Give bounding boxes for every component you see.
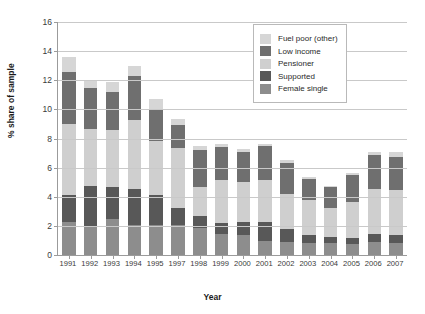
legend-item-female-single[interactable]: Female single [260,84,338,94]
bar-segment-female-single[interactable] [149,225,163,255]
bar-segment-fuel-poor-other[interactable] [368,152,382,156]
bar-segment-fuel-poor-other[interactable] [258,144,272,146]
stacked-bar[interactable] [346,173,360,255]
bar-segment-female-single[interactable] [368,242,382,255]
bar-segment-low-income[interactable] [258,146,272,180]
bar-segment-supported[interactable] [128,189,142,225]
x-axis-tick-label: 1992 [79,259,101,268]
bar-segment-female-single[interactable] [128,225,142,255]
bar-segment-fuel-poor-other[interactable] [84,81,98,88]
bar-segment-low-income[interactable] [346,175,360,202]
bar-segment-supported[interactable] [389,235,403,242]
bar-segment-supported[interactable] [215,223,229,234]
bar-segment-fuel-poor-other[interactable] [171,119,185,125]
bar-segment-low-income[interactable] [171,125,185,148]
bar-segment-low-income[interactable] [149,109,163,140]
gridline [58,80,407,81]
bar-segment-supported[interactable] [258,222,272,242]
bar-segment-fuel-poor-other[interactable] [62,57,76,72]
legend-item-low-income[interactable]: Low income [260,46,338,56]
bar-segment-low-income[interactable] [215,147,229,180]
bar-segment-low-income[interactable] [368,155,382,189]
stacked-bar[interactable] [106,82,120,255]
bar-segment-supported[interactable] [149,195,163,225]
legend-swatch-icon [260,71,271,81]
bar-segment-female-single[interactable] [389,243,403,255]
bar-segment-female-single[interactable] [324,243,338,255]
bar-segment-supported[interactable] [106,187,120,218]
bar-segment-low-income[interactable] [106,92,120,130]
bar-segment-fuel-poor-other[interactable] [215,144,229,146]
bar-segment-female-single[interactable] [215,234,229,255]
bar-segment-supported[interactable] [280,229,294,242]
x-axis-tick-label: 1995 [144,259,166,268]
bar-segment-pensioner[interactable] [171,148,185,208]
bar-segment-supported[interactable] [62,195,76,221]
bar-segment-pensioner[interactable] [237,182,251,222]
bar-segment-female-single[interactable] [280,242,294,255]
bar-segment-supported[interactable] [171,208,185,225]
stacked-bar[interactable] [280,160,294,255]
x-axis-title: Year [0,292,425,302]
bar-segment-supported[interactable] [302,235,316,243]
bar-segment-fuel-poor-other[interactable] [389,152,403,157]
gridline [58,51,407,52]
bar-segment-low-income[interactable] [128,76,142,120]
bar-segment-pensioner[interactable] [302,200,316,234]
legend-item-label: Pensioner [278,59,314,68]
bar-segment-pensioner[interactable] [346,202,360,238]
y-axis-title: % share of sample [6,63,16,138]
bar-segment-female-single[interactable] [171,225,185,255]
bar-segment-fuel-poor-other[interactable] [106,82,120,91]
stacked-bar[interactable] [193,146,207,255]
stacked-bar[interactable] [215,144,229,255]
bar-segment-pensioner[interactable] [193,187,207,216]
bar-segment-supported[interactable] [84,186,98,228]
bar-segment-supported[interactable] [346,238,360,245]
bar-segment-pensioner[interactable] [128,120,142,190]
legend-item-label: Fuel poor (other) [278,34,338,43]
bar-segment-supported[interactable] [368,234,382,242]
legend-item-label: Low income [278,47,321,56]
y-tick-mark [54,22,58,23]
bar-segment-fuel-poor-other[interactable] [280,160,294,163]
bar-segment-low-income[interactable] [389,157,403,190]
bar-segment-supported[interactable] [237,222,251,235]
bar-segment-female-single[interactable] [302,243,316,255]
stacked-bar[interactable] [258,144,272,255]
bar-segment-fuel-poor-other[interactable] [128,66,142,75]
legend-swatch-icon [260,34,271,44]
gridline [58,226,407,227]
bar-segment-female-single[interactable] [346,244,360,255]
bar-segment-female-single[interactable] [258,241,272,255]
bar-segment-pensioner[interactable] [62,124,76,195]
bar-segment-supported[interactable] [324,237,338,244]
legend-item-pensioner[interactable]: Pensioner [260,59,338,69]
bar-segment-fuel-poor-other[interactable] [237,149,251,152]
y-tick-mark [54,51,58,52]
y-axis-tick-label: 4 [47,192,52,202]
bar-segment-female-single[interactable] [106,219,120,255]
bar-segment-fuel-poor-other[interactable] [324,186,338,187]
x-axis-tick-label: 2004 [319,259,341,268]
stacked-bar[interactable] [149,99,163,255]
bar-segment-pensioner[interactable] [258,180,272,222]
bar-segment-female-single[interactable] [84,227,98,255]
bar-segment-pensioner[interactable] [280,194,294,229]
x-axis-tick-label: 2005 [341,259,363,268]
bar-segment-female-single[interactable] [193,228,207,255]
chart-container: % share of sample 0246810121416 Year Fue… [0,0,425,314]
bar-segment-low-income[interactable] [193,150,207,187]
bar-segment-fuel-poor-other[interactable] [302,177,316,179]
legend-item-fuel-poor-other[interactable]: Fuel poor (other) [260,34,338,44]
bar-segment-fuel-poor-other[interactable] [193,146,207,150]
stacked-bar[interactable] [237,149,251,255]
bar-segment-fuel-poor-other[interactable] [346,173,360,175]
bar-segment-female-single[interactable] [237,235,251,255]
bar-segment-pensioner[interactable] [324,208,338,237]
bar-segment-fuel-poor-other[interactable] [149,99,163,109]
stacked-bar[interactable] [302,177,316,255]
bar-segment-pensioner[interactable] [215,180,229,223]
legend-swatch-icon [260,59,271,69]
legend-item-supported[interactable]: Supported [260,71,338,81]
